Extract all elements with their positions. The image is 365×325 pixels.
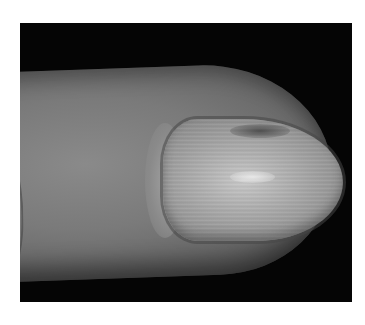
nail-highlight xyxy=(230,171,275,183)
nail-discoloration xyxy=(230,124,290,138)
photo-frame xyxy=(20,23,352,302)
skin-crease xyxy=(20,152,25,273)
